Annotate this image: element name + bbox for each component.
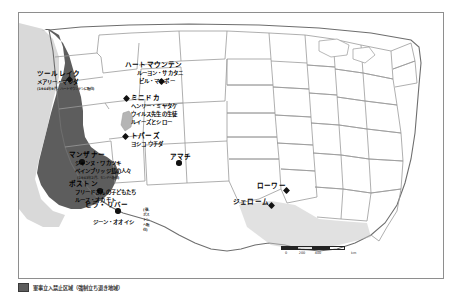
scale-segment-3 bbox=[313, 246, 329, 250]
camp-person-minidoka-0: ヘンリー・ミヤタケ bbox=[131, 102, 177, 110]
scale-bar: 0 200 400 km bbox=[281, 245, 345, 255]
camp-name-minidoka: ミニドカ bbox=[131, 92, 177, 102]
gulf-coast-shading bbox=[239, 201, 371, 251]
map-legend-caption: 軍事立入禁止区域（強制立ち退き地域） bbox=[18, 283, 123, 292]
scale-tick-labels: 0 200 400 bbox=[278, 251, 345, 255]
map-canvas bbox=[19, 13, 443, 278]
camp-person-minidoka-1: ウイルス先生の生徒 bbox=[131, 110, 177, 118]
camp-person-tule-lake-0: メアリー・マツダ bbox=[37, 78, 94, 86]
camp-name-jerome: ジェローム bbox=[233, 196, 269, 206]
camp-name-topaz: トパーズ bbox=[131, 130, 164, 140]
camp-name-poston: ポストン bbox=[69, 178, 136, 188]
label-group-rohwer: ローワー bbox=[257, 180, 286, 190]
camp-name-rohwer: ローワー bbox=[257, 180, 286, 190]
map-frame: ツールレイク メアリー・マツダ (1944年9月、ハートマウンテンに転住) ハー… bbox=[18, 12, 444, 279]
label-group-gila-river: ヒラ・リバー ジーン・オオイシ (後、ポストンへ転住) bbox=[85, 199, 134, 228]
camp-person-poston-0: フリードさんの子どもたち bbox=[69, 188, 136, 196]
camp-person-minidoka-2: ルイーズとシロー bbox=[131, 118, 177, 126]
legend-swatch-exclusion-zone bbox=[18, 283, 29, 292]
camp-person-topaz-0: ヨシコ ウチダ bbox=[131, 140, 164, 148]
label-group-manzanar: マンザナー ジャンヌ・ワカツキ ベインブリッジ島の人々 (1943年2月、モンド… bbox=[69, 149, 131, 180]
camp-person-heart-mountain-1: ビル・マンボー bbox=[125, 77, 183, 85]
camp-name-tule-lake: ツールレイク bbox=[37, 68, 94, 78]
camp-name-amache: アマチ bbox=[170, 151, 192, 161]
scale-segment-1 bbox=[281, 246, 297, 250]
label-group-amache: アマチ bbox=[170, 151, 192, 161]
scale-tick-1: 200 bbox=[294, 251, 310, 255]
legend-label-exclusion-zone: 軍事立入禁止区域（強制立ち退き地域） bbox=[33, 284, 123, 291]
scale-bar-segments bbox=[281, 245, 345, 250]
camp-person-gila-river-0: ジーン・オオイシ bbox=[85, 218, 134, 226]
scale-unit-label: km bbox=[351, 251, 356, 255]
scale-tick-0: 0 bbox=[278, 251, 294, 255]
label-group-minidoka: ミニドカ ヘンリー・ミヤタケ ウイルス先生の生徒 ルイーズとシロー bbox=[131, 92, 177, 126]
camp-person-heart-mountain-0: ルーヨン・サカタニ bbox=[125, 69, 183, 77]
usa-map-svg bbox=[19, 13, 443, 278]
map-figure: ツールレイク メアリー・マツダ (1944年9月、ハートマウンテンに転住) ハー… bbox=[0, 0, 457, 298]
scale-segment-2 bbox=[297, 246, 313, 250]
camp-person-manzanar-1: ベインブリッジ島の人々 bbox=[69, 167, 131, 175]
label-group-tule-lake: ツールレイク メアリー・マツダ (1944年9月、ハートマウンテンに転住) bbox=[37, 68, 94, 91]
camp-name-heart-mountain: ハートマウンテン bbox=[125, 59, 183, 69]
label-group-topaz: トパーズ ヨシコ ウチダ bbox=[131, 130, 164, 148]
camp-name-manzanar: マンザナー bbox=[69, 149, 131, 159]
label-group-heart-mountain: ハートマウンテン ルーヨン・サカタニ ビル・マンボー bbox=[125, 59, 183, 85]
camp-name-gila-river: ヒラ・リバー bbox=[85, 199, 134, 209]
camp-note-tule-lake: (1944年9月、ハートマウンテンに転住) bbox=[37, 86, 94, 91]
scale-segment-4 bbox=[329, 246, 345, 250]
scale-tick-2: 400 bbox=[310, 251, 326, 255]
great-lakes bbox=[319, 39, 375, 63]
camp-person-manzanar-0: ジャンヌ・ワカツキ bbox=[69, 159, 131, 167]
camp-note-gila-river: (後、ポストンへ転住) bbox=[143, 207, 151, 232]
label-group-jerome: ジェローム bbox=[233, 196, 269, 206]
